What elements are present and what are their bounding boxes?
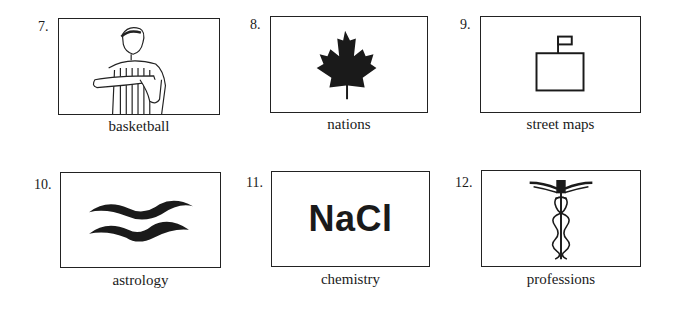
item-number: 7. <box>38 20 49 34</box>
item-label: astrology <box>60 272 221 289</box>
aquarius-icon <box>61 173 220 267</box>
item-number: 11. <box>246 176 263 190</box>
picture-box <box>481 170 641 267</box>
item-label: nations <box>270 116 428 133</box>
item-label: basketball <box>58 118 220 135</box>
item-number: 9. <box>460 18 471 32</box>
picture-box <box>270 16 428 113</box>
item-number: 10. <box>34 178 52 192</box>
picture-box <box>58 18 220 115</box>
building-flag-icon <box>481 17 640 112</box>
nacl-text-icon: NaCl <box>272 198 429 240</box>
item-label: professions <box>481 271 641 288</box>
picture-box: NaCl <box>271 171 430 267</box>
picture-box <box>480 16 641 113</box>
referee-timeout-icon <box>59 19 219 114</box>
item-number: 8. <box>250 18 261 32</box>
caduceus-icon <box>482 171 640 266</box>
item-label: chemistry <box>271 271 430 288</box>
item-number: 12. <box>455 176 473 190</box>
item-label: street maps <box>480 116 641 133</box>
maple-leaf-icon <box>271 17 427 112</box>
picture-box <box>60 172 221 268</box>
